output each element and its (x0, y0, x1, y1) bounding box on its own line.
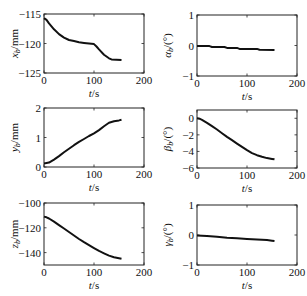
data-line (197, 236, 275, 241)
y-axis-label: xb/mm (8, 29, 22, 60)
axes-frame (44, 108, 144, 167)
x-axis-label: t/s (242, 90, 252, 102)
data-line (44, 18, 122, 60)
y-axis-label: γb/(°) (161, 223, 175, 246)
y-tick-label: 1 (36, 132, 42, 144)
x-tick-label: 200 (136, 74, 153, 86)
y-tick-label: 1 (189, 9, 195, 21)
figure-canvas: 0100200−115−120−125t/sxb/mm010020010−1t/… (0, 0, 307, 296)
subplot-gamma: 010020010−1t/sγb/(°) (161, 199, 306, 291)
y-tick-label: 0 (36, 161, 42, 173)
y-tick-label: −4 (182, 145, 194, 157)
y-tick-label: 0 (189, 112, 195, 124)
data-line (197, 118, 275, 159)
x-tick-label: 100 (86, 168, 103, 180)
axes-frame (44, 203, 144, 265)
y-axis-label: βb/(°) (161, 127, 175, 153)
subplot-zb: 0100200−100−120−140t/szb/mm (8, 197, 153, 291)
x-tick-label: 100 (239, 77, 256, 89)
x-tick-label: 100 (86, 266, 103, 278)
x-tick-label: 0 (41, 74, 47, 86)
x-tick-label: 200 (289, 77, 306, 89)
y-tick-label: −115 (19, 8, 42, 20)
x-axis-label: t/s (242, 182, 252, 194)
x-tick-label: 0 (194, 77, 200, 89)
axes-frame (197, 110, 297, 168)
x-tick-label: 0 (194, 169, 200, 181)
subplot-alpha: 010020010−1t/sαb/(°) (161, 9, 306, 102)
x-tick-label: 0 (41, 168, 47, 180)
axes-frame (197, 15, 297, 76)
subplot-xb: 0100200−115−120−125t/sxb/mm (8, 8, 153, 99)
y-tick-label: −120 (18, 222, 41, 234)
x-axis-label: t/s (89, 279, 99, 291)
y-tick-label: −120 (18, 38, 41, 50)
data-line (44, 217, 122, 259)
subplot-beta: 01002000−2−4−6t/sβb/(°) (161, 110, 306, 194)
y-tick-label: −6 (182, 162, 194, 174)
axes-frame (197, 205, 297, 265)
y-tick-label: −2 (182, 129, 194, 141)
y-tick-label: −125 (18, 67, 41, 79)
x-axis-label: t/s (89, 87, 99, 99)
y-axis-label: zb/mm (8, 219, 22, 249)
x-axis-label: t/s (89, 181, 99, 193)
y-tick-label: 0 (189, 40, 195, 52)
figure-grid: 0100200−115−120−125t/sxb/mm010020010−1t/… (0, 0, 307, 296)
x-tick-label: 200 (289, 169, 306, 181)
y-tick-label: 2 (36, 102, 42, 114)
x-tick-label: 200 (136, 266, 153, 278)
x-tick-label: 200 (136, 168, 153, 180)
x-tick-label: 200 (289, 266, 306, 278)
y-axis-label: αb/(°) (161, 33, 175, 58)
data-line (197, 46, 275, 50)
y-tick-label: −140 (18, 247, 41, 259)
x-tick-label: 100 (239, 266, 256, 278)
y-tick-label: −100 (18, 197, 41, 209)
x-tick-label: 100 (239, 169, 256, 181)
y-tick-label: 0 (189, 229, 195, 241)
x-tick-label: 100 (86, 74, 103, 86)
subplot-yb: 0100200210t/syb/mm (8, 102, 153, 193)
x-axis-label: t/s (242, 279, 252, 291)
x-tick-label: 0 (41, 266, 47, 278)
y-tick-label: 1 (189, 199, 195, 211)
x-tick-label: 0 (194, 266, 200, 278)
data-line (44, 120, 122, 164)
y-tick-label: −1 (182, 259, 194, 271)
y-axis-label: yb/mm (8, 123, 22, 154)
y-tick-label: −1 (182, 70, 194, 82)
